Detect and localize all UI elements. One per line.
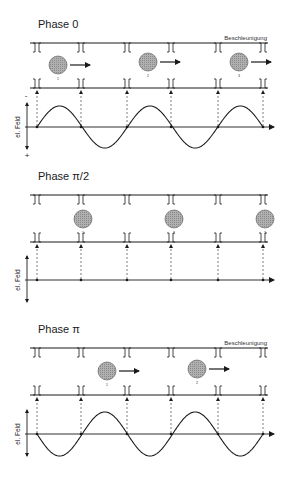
drift-tube-gap-top bbox=[259, 195, 261, 204]
drift-tube-gap-top bbox=[39, 43, 41, 52]
y-axis-label: el. Feld bbox=[14, 269, 21, 291]
drift-tube-gap-top bbox=[77, 348, 79, 357]
drift-tube-gap-bottom bbox=[77, 386, 79, 395]
drift-tube-gap-top bbox=[173, 348, 175, 357]
drift-tube-gap-bottom bbox=[39, 386, 41, 395]
particle-number: 1 bbox=[106, 383, 108, 387]
drift-tube-gap-bottom bbox=[77, 233, 79, 242]
drift-tube-gap-bottom bbox=[83, 79, 85, 88]
particle-bunch bbox=[49, 56, 67, 74]
drift-tube-gap-top bbox=[123, 43, 125, 52]
drift-tube-gap-bottom bbox=[129, 386, 131, 395]
drift-tube-gap-bottom bbox=[173, 79, 175, 88]
particle-number: 3 bbox=[264, 231, 266, 235]
y-axis-label: el. Feld bbox=[14, 423, 21, 445]
particle-number: 3 bbox=[238, 74, 240, 78]
drift-tube-gap-top bbox=[33, 348, 35, 357]
particle-bunch bbox=[256, 210, 274, 228]
panel-phase-pi: Phase πBeschleunigungel. Feld12 bbox=[14, 323, 274, 456]
panel-title: Phase π/2 bbox=[38, 170, 89, 182]
drift-tube-gap-bottom bbox=[123, 233, 125, 242]
drift-tube-gap-top bbox=[39, 195, 41, 204]
drift-tube-gap-top bbox=[173, 195, 175, 204]
drift-tube-gap-bottom bbox=[167, 386, 169, 395]
particle-bunch bbox=[98, 362, 116, 380]
drift-tube-gap-bottom bbox=[220, 79, 222, 88]
drift-tube-gap-top bbox=[220, 348, 222, 357]
drift-tube-gap-top bbox=[83, 43, 85, 52]
drift-tube-gap-top bbox=[83, 348, 85, 357]
drift-tube-gap-top bbox=[173, 43, 175, 52]
drift-tube-gap-top bbox=[259, 43, 261, 52]
drift-tube-gap-bottom bbox=[83, 386, 85, 395]
drift-tube-gap-top bbox=[214, 348, 216, 357]
accelerator-phase-diagram: Phase 0Beschleunigungel. Feld-+123Phase … bbox=[0, 0, 291, 479]
drift-tube-gap-top bbox=[33, 43, 35, 52]
drift-tube-gap-bottom bbox=[33, 386, 35, 395]
drift-tube-gap-top bbox=[83, 195, 85, 204]
drift-tube-gap-top bbox=[214, 195, 216, 204]
drift-tube-gap-bottom bbox=[259, 79, 261, 88]
drift-tube-gap-top bbox=[214, 43, 216, 52]
drift-tube-gap-bottom bbox=[220, 233, 222, 242]
drift-tube-gap-top bbox=[123, 348, 125, 357]
acceleration-label: Beschleunigung bbox=[224, 35, 267, 41]
drift-tube-gap-bottom bbox=[123, 79, 125, 88]
drift-tube-gap-top bbox=[167, 43, 169, 52]
drift-tube-gap-top bbox=[265, 348, 267, 357]
drift-tube-gap-bottom bbox=[214, 386, 216, 395]
drift-tube-gap-bottom bbox=[173, 386, 175, 395]
drift-tube-gap-bottom bbox=[39, 79, 41, 88]
drift-tube-gap-bottom bbox=[167, 79, 169, 88]
drift-tube-gap-bottom bbox=[77, 79, 79, 88]
drift-tube-gap-bottom bbox=[123, 386, 125, 395]
drift-tube-gap-top bbox=[265, 195, 267, 204]
particle-number: 1 bbox=[82, 231, 84, 235]
particle-bunch bbox=[139, 53, 157, 71]
drift-tube-gap-top bbox=[123, 195, 125, 204]
particle-bunch bbox=[74, 210, 92, 228]
drift-tube-gap-top bbox=[129, 348, 131, 357]
drift-tube-gap-bottom bbox=[33, 79, 35, 88]
drift-tube-gap-top bbox=[39, 348, 41, 357]
particle-number: 1 bbox=[57, 77, 59, 81]
drift-tube-gap-bottom bbox=[259, 386, 261, 395]
sign-minus: - bbox=[25, 91, 28, 100]
drift-tube-gap-bottom bbox=[220, 386, 222, 395]
drift-tube-gap-top bbox=[33, 195, 35, 204]
drift-tube-gap-top bbox=[129, 195, 131, 204]
drift-tube-gap-bottom bbox=[129, 79, 131, 88]
particle-bunch bbox=[165, 210, 183, 228]
drift-tube-gap-bottom bbox=[167, 233, 169, 242]
particle-bunch bbox=[230, 53, 248, 71]
drift-tube-gap-bottom bbox=[129, 233, 131, 242]
drift-tube-gap-top bbox=[129, 43, 131, 52]
drift-tube-gap-top bbox=[77, 195, 79, 204]
drift-tube-gap-bottom bbox=[265, 386, 267, 395]
particle-bunch bbox=[188, 360, 206, 378]
drift-tube-gap-top bbox=[265, 43, 267, 52]
drift-tube-gap-bottom bbox=[33, 233, 35, 242]
particle-number: 2 bbox=[196, 381, 198, 385]
particle-number: 2 bbox=[147, 74, 149, 78]
acceleration-label: Beschleunigung bbox=[224, 340, 267, 346]
panel-title: Phase π bbox=[38, 323, 80, 335]
drift-tube-gap-bottom bbox=[214, 233, 216, 242]
drift-tube-gap-bottom bbox=[259, 233, 261, 242]
y-axis-label: el. Feld bbox=[14, 116, 21, 138]
panel-phase-pi-2: Phase π/2el. Feld123 bbox=[14, 170, 274, 302]
drift-tube-gap-top bbox=[220, 43, 222, 52]
drift-tube-gap-top bbox=[167, 195, 169, 204]
drift-tube-gap-top bbox=[259, 348, 261, 357]
panel-phase-0: Phase 0Beschleunigungel. Feld-+123 bbox=[14, 18, 274, 160]
drift-tube-gap-top bbox=[167, 348, 169, 357]
particle-number: 2 bbox=[173, 231, 175, 235]
sign-plus: + bbox=[25, 151, 30, 160]
drift-tube-gap-bottom bbox=[214, 79, 216, 88]
drift-tube-gap-top bbox=[77, 43, 79, 52]
panel-title: Phase 0 bbox=[38, 18, 78, 30]
drift-tube-gap-bottom bbox=[39, 233, 41, 242]
drift-tube-gap-top bbox=[220, 195, 222, 204]
drift-tube-gap-bottom bbox=[265, 79, 267, 88]
